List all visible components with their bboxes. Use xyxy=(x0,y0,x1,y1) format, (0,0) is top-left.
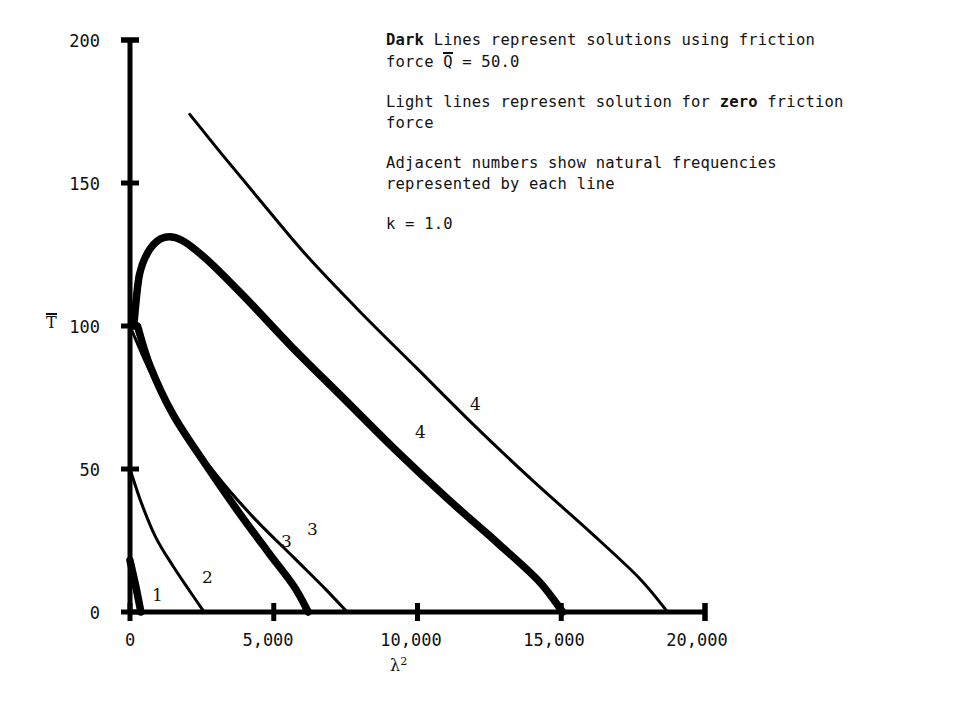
curves-group xyxy=(130,114,668,612)
curve-dark-mode-3 xyxy=(137,326,308,612)
plot-svg xyxy=(0,0,975,705)
curve-dark-mode-4 xyxy=(134,237,563,612)
curve-light-mode-2 xyxy=(130,469,204,612)
axes-group xyxy=(121,40,705,621)
chart-page: Dark Lines represent solutions using fri… xyxy=(0,0,975,705)
